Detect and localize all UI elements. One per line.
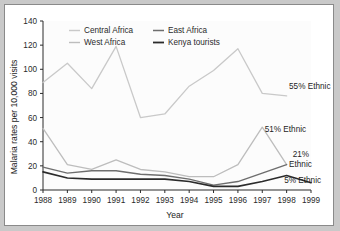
y-tick-label: 60 (28, 114, 38, 123)
x-tick-label: 1996 (229, 196, 248, 205)
figure-frame: 020406080100120140 198819891990199119921… (4, 4, 334, 226)
y-tick-label: 40 (28, 138, 38, 147)
x-tick-label: 1994 (180, 196, 199, 205)
malaria-rates-line-chart: 020406080100120140 198819891990199119921… (5, 5, 333, 225)
x-tick-label: 1998 (278, 196, 297, 205)
x-axis-title: Year (166, 210, 184, 220)
y-tick-label: 120 (23, 41, 37, 50)
x-tick-label: 1995 (204, 196, 223, 205)
x-tick-label: 1989 (58, 196, 77, 205)
y-tick-label: 100 (23, 65, 37, 74)
y-tick-label: 20 (28, 162, 38, 171)
y-axis-title: Malaria rates per 10,000 visits (9, 60, 19, 175)
annotation-label: Ethnic (289, 160, 312, 169)
annotation-label: 51% Ethnic (265, 125, 306, 134)
legend-label-kenya-tourists: Kenya tourists (168, 38, 220, 47)
legend-label-central-africa: Central Africa (84, 26, 134, 35)
y-tick-label: 140 (23, 17, 37, 26)
x-tick-label: 1992 (131, 196, 150, 205)
y-tick-label: 0 (32, 186, 37, 195)
annotation-label: 5% Ethnic (284, 176, 321, 185)
y-tick-label: 80 (28, 89, 38, 98)
x-tick-label: 1988 (34, 196, 53, 205)
annotation-label: 55% Ethnic (289, 82, 330, 91)
x-tick-label: 1999 (302, 196, 321, 205)
legend-label-east-africa: East Africa (168, 26, 208, 35)
legend-label-west-africa: West Africa (84, 38, 126, 47)
x-tick-label: 1991 (107, 196, 126, 205)
x-tick-label: 1990 (83, 196, 102, 205)
x-tick-label: 1997 (253, 196, 272, 205)
x-tick-label: 1993 (156, 196, 175, 205)
annotation-label: 21% (293, 150, 309, 159)
